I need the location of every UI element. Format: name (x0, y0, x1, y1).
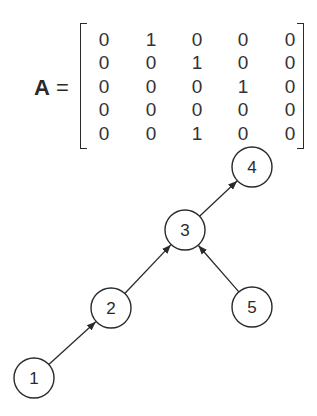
node-label: 2 (106, 299, 115, 318)
node-label: 5 (247, 298, 256, 317)
graph-node-5: 5 (232, 287, 272, 327)
node-label: 3 (180, 221, 189, 240)
edge-2-to-3 (125, 245, 171, 294)
graph-node-4: 4 (232, 147, 272, 187)
node-label: 1 (29, 369, 38, 388)
graph-node-3: 3 (165, 210, 205, 250)
edge-5-to-3 (198, 245, 238, 291)
graph-node-2: 2 (91, 288, 131, 328)
graph-edges (49, 181, 239, 365)
graph-node-1: 1 (14, 358, 54, 398)
directed-graph: 12345 (0, 0, 317, 416)
edge-1-to-2 (49, 322, 96, 365)
node-label: 4 (247, 158, 256, 177)
edge-3-to-4 (200, 181, 237, 216)
